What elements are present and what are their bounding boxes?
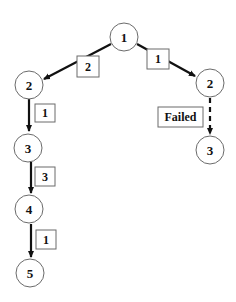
node-label: 3 [25,141,32,156]
weight-label: 1 [155,52,161,66]
node-left-2: 2 [15,71,43,99]
node-right-3: 3 [196,136,224,164]
failed-label: Failed [165,110,197,124]
weight-label: 3 [42,170,48,184]
node-label: 2 [26,78,33,93]
weight-label: 1 [42,106,48,120]
node-root: 1 [110,23,138,51]
node-left-3: 3 [14,134,42,162]
weight-box-l3-l4: 3 [35,167,55,186]
weight-box-root-right: 1 [147,49,169,69]
node-label: 2 [207,76,214,91]
weight-box-l2-l3: 1 [35,104,55,122]
node-label: 5 [27,266,34,281]
node-right-2: 2 [196,69,224,97]
node-label: 3 [207,143,214,158]
node-left-5: 5 [16,259,44,287]
node-label: 1 [121,30,128,45]
weight-label: 1 [43,233,49,247]
weight-box-l4-l5: 1 [36,230,56,249]
weight-label: 2 [85,60,91,74]
failed-label-box: Failed [158,107,203,127]
weight-box-root-left: 2 [77,56,99,77]
node-label: 4 [26,202,33,217]
node-left-4: 4 [15,195,43,223]
tree-diagram: 2 1 1 3 1 Failed 1 2 3 4 5 2 [0,0,236,302]
